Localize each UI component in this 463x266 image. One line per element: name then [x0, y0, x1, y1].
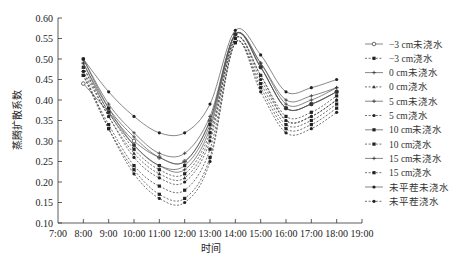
- x-tick-label: 17:00: [300, 228, 323, 239]
- square-marker-icon: [107, 107, 110, 110]
- dot-marker-icon: [284, 131, 287, 134]
- y-tick-label: 0.55: [36, 33, 54, 44]
- dot-marker-icon: [208, 139, 211, 142]
- square-marker-icon: [310, 123, 313, 126]
- dot-marker-icon: [158, 176, 161, 179]
- x-tick-label: 7:00: [49, 228, 67, 239]
- x-tick-label: 9:00: [100, 228, 118, 239]
- legend-item: 5 cm未浇水: [365, 96, 438, 107]
- y-axis-title: 蒸腾扩散系数: [11, 90, 23, 150]
- dot-marker-icon: [132, 172, 135, 175]
- square-marker-icon: [372, 128, 375, 131]
- dot-marker-icon: [259, 90, 262, 93]
- plus-marker-icon: [158, 152, 162, 156]
- square-marker-icon: [372, 57, 375, 60]
- plus-marker-icon: [372, 71, 376, 75]
- triangle-marker-icon: [183, 176, 187, 179]
- square-marker-icon: [259, 82, 262, 85]
- y-tick-label: 0.60: [36, 13, 54, 24]
- y-tick-label: 0.15: [36, 197, 54, 208]
- circle-marker-icon: [132, 139, 136, 143]
- legend: −3 cm未浇水−3 cm浇水0 cm未浇水0 cm浇水5 cm未浇水5 cm浇…: [365, 39, 449, 207]
- dot-marker-icon: [158, 131, 161, 134]
- series-path: [83, 33, 336, 164]
- dot-marker-icon: [107, 90, 110, 93]
- square-marker-icon: [132, 164, 135, 167]
- legend-item: 未平茬未浇水: [365, 182, 449, 193]
- dot-marker-icon: [310, 86, 313, 89]
- legend-label: 0 cm浇水: [389, 81, 428, 92]
- dot-marker-icon: [234, 41, 237, 44]
- x-tick-label: 8:00: [74, 228, 92, 239]
- series-line: [82, 37, 339, 177]
- square-marker-icon: [335, 103, 338, 106]
- plus-marker-icon: [372, 99, 376, 103]
- dot-marker-icon: [82, 57, 85, 60]
- x-tick-label: 18:00: [325, 228, 348, 239]
- legend-label: 0 cm未浇水: [389, 67, 438, 78]
- square-marker-icon: [132, 168, 135, 171]
- square-marker-icon: [284, 123, 287, 126]
- dot-marker-icon: [372, 200, 375, 203]
- x-ticks: 7:008:009:0010:0011:0012:0013:0014:0015:…: [49, 219, 373, 239]
- square-marker-icon: [372, 171, 375, 174]
- circle-marker-icon: [372, 42, 376, 46]
- series-path: [83, 32, 336, 172]
- square-marker-icon: [183, 172, 186, 175]
- dot-marker-icon: [310, 115, 313, 118]
- dot-marker-icon: [158, 197, 161, 200]
- series-line: [82, 33, 339, 157]
- x-tick-label: 19:00: [351, 228, 374, 239]
- square-marker-icon: [335, 94, 338, 97]
- dot-marker-icon: [132, 156, 135, 159]
- dot-marker-icon: [132, 115, 135, 118]
- square-marker-icon: [310, 111, 313, 114]
- x-tick-label: 10:00: [123, 228, 146, 239]
- legend-item: 15 cm未浇水: [365, 153, 442, 164]
- square-marker-icon: [158, 193, 161, 196]
- legend-item: −3 cm未浇水: [365, 39, 443, 50]
- circle-marker-icon: [82, 82, 86, 86]
- y-tick-label: 0.35: [36, 115, 54, 126]
- legend-label: 15 cm未浇水: [389, 153, 442, 164]
- dot-marker-icon: [335, 98, 338, 101]
- y-tick-label: 0.50: [36, 54, 54, 65]
- series-path: [83, 37, 336, 177]
- dot-marker-icon: [335, 78, 338, 81]
- x-tick-label: 11:00: [148, 228, 170, 239]
- line-chart: 0.100.150.200.250.300.350.400.450.500.55…: [0, 0, 463, 266]
- square-marker-icon: [372, 143, 375, 146]
- legend-item: 0 cm浇水: [365, 81, 428, 92]
- x-tick-label: 14:00: [224, 228, 247, 239]
- square-marker-icon: [183, 189, 186, 192]
- dot-marker-icon: [310, 127, 313, 130]
- x-tick-label: 12:00: [173, 228, 196, 239]
- plus-marker-icon: [310, 94, 314, 98]
- legend-item: 5 cm浇水: [365, 110, 428, 121]
- square-marker-icon: [183, 164, 186, 167]
- square-marker-icon: [183, 197, 186, 200]
- legend-label: 15 cm浇水: [389, 167, 432, 178]
- legend-item: −3 cm浇水: [365, 53, 433, 64]
- y-tick-label: 0.40: [36, 95, 54, 106]
- series-path: [83, 32, 336, 164]
- square-marker-icon: [284, 127, 287, 130]
- dot-marker-icon: [82, 70, 85, 73]
- y-tick-label: 0.10: [36, 218, 54, 229]
- square-marker-icon: [335, 107, 338, 110]
- legend-item: 15 cm浇水: [365, 167, 432, 178]
- plus-marker-icon: [372, 157, 376, 161]
- series-line: [82, 32, 339, 164]
- square-marker-icon: [284, 115, 287, 118]
- legend-label: 未平茬未浇水: [389, 182, 449, 193]
- square-marker-icon: [158, 168, 161, 171]
- square-marker-icon: [158, 185, 161, 188]
- legend-item: 未平茬浇水: [365, 196, 439, 207]
- plus-marker-icon: [335, 86, 339, 90]
- y-tick-label: 0.45: [36, 74, 54, 85]
- dot-marker-icon: [259, 53, 262, 56]
- square-marker-icon: [132, 148, 135, 151]
- legend-label: −3 cm浇水: [389, 53, 433, 64]
- dot-marker-icon: [259, 78, 262, 81]
- legend-label: 10 cm未浇水: [389, 124, 442, 135]
